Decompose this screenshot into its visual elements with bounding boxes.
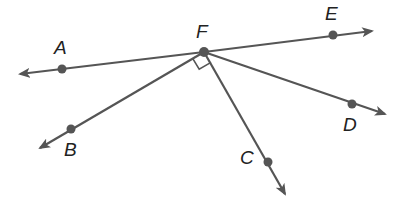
label-E: E	[325, 4, 338, 23]
label-B: B	[64, 140, 77, 159]
point-E	[329, 31, 338, 40]
ray-FE	[204, 31, 372, 52]
label-D: D	[343, 115, 357, 134]
point-C	[264, 158, 273, 167]
ray-FC	[204, 52, 285, 194]
point-B	[67, 125, 76, 134]
point-A	[58, 65, 67, 74]
label-F: F	[196, 22, 208, 41]
ray-FD	[204, 52, 385, 114]
point-F	[199, 47, 209, 57]
ray-FA	[20, 52, 204, 74]
point-D	[348, 100, 357, 109]
label-A: A	[54, 38, 67, 57]
label-C: C	[240, 148, 254, 167]
points	[58, 31, 357, 167]
